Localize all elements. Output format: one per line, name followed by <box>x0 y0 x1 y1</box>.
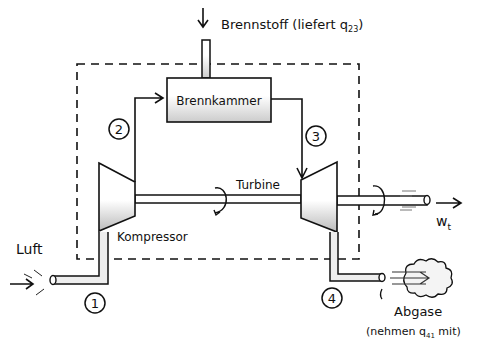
gas-turbine-diagram: 1 2 3 4 Brennstoff (liefert q23) Brennka… <box>0 0 498 350</box>
svg-text:4: 4 <box>328 291 336 306</box>
fuel-inlet-pipe <box>198 8 210 78</box>
shaft <box>135 186 430 215</box>
turbine-label: Turbine <box>235 178 280 192</box>
flow-line-3 <box>271 99 307 178</box>
fuel-label: Brennstoff (liefert q23) <box>221 17 363 34</box>
air-label: Luft <box>16 241 43 257</box>
fuel-arrow-icon <box>198 8 208 27</box>
exhaust-note-label: (nehmen q41 mit) <box>366 325 461 340</box>
state-marker-2: 2 <box>109 119 129 139</box>
work-label: wt <box>436 213 451 232</box>
svg-text:1: 1 <box>91 296 99 311</box>
svg-text:2: 2 <box>115 122 123 137</box>
air-inlet-pipe <box>53 232 108 284</box>
state-marker-3: 3 <box>306 126 326 146</box>
svg-text:3: 3 <box>312 129 320 144</box>
flow-line-2 <box>135 93 163 182</box>
state-marker-4: 4 <box>322 288 342 308</box>
work-arrow-icon <box>436 198 461 208</box>
compressor-label: Kompressor <box>117 230 188 244</box>
compressor <box>99 163 135 231</box>
combustion-chamber-label: Brennkammer <box>176 94 261 108</box>
exhaust-label: Abgase <box>394 304 442 319</box>
state-marker-1: 1 <box>85 293 105 313</box>
exhaust-pipe <box>330 232 382 281</box>
turbine <box>301 162 337 232</box>
air-arrow-icon <box>10 279 33 289</box>
